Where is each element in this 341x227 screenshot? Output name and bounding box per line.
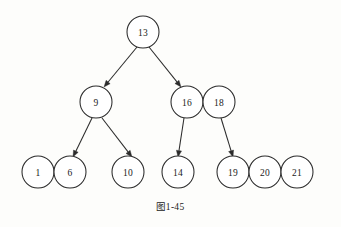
edge-line bbox=[76, 118, 92, 151]
tree-node[interactable]: 6 bbox=[54, 156, 86, 188]
node-label: 14 bbox=[173, 168, 183, 178]
node-label: 1 bbox=[36, 168, 41, 178]
tree-edge bbox=[149, 47, 181, 87]
node-label: 13 bbox=[138, 28, 148, 38]
tree-edge bbox=[176, 118, 184, 157]
edge-line bbox=[149, 47, 177, 82]
edge-line bbox=[221, 118, 231, 151]
node-label: 10 bbox=[123, 168, 133, 178]
tree-edge bbox=[102, 118, 132, 157]
node-label: 20 bbox=[260, 168, 270, 178]
edge-line bbox=[108, 47, 137, 82]
tree-node[interactable]: 9 bbox=[80, 86, 112, 118]
nodes-layer: 1391618161014192021 bbox=[22, 16, 313, 188]
edge-line bbox=[179, 118, 184, 151]
tree-edge bbox=[73, 118, 92, 157]
tree-node[interactable]: 21 bbox=[281, 156, 313, 188]
tree-node[interactable]: 13 bbox=[127, 16, 159, 48]
node-label: 16 bbox=[182, 98, 192, 108]
tree-edge bbox=[221, 118, 234, 157]
tree-node[interactable]: 14 bbox=[162, 156, 194, 188]
tree-diagram-svg: 1391618161014192021 图1-45 bbox=[0, 0, 341, 227]
tree-node[interactable]: 10 bbox=[112, 156, 144, 188]
tree-node[interactable]: 20 bbox=[249, 156, 281, 188]
tree-node[interactable]: 19 bbox=[217, 156, 249, 188]
node-label: 21 bbox=[292, 168, 302, 178]
tree-node[interactable]: 1 bbox=[22, 156, 54, 188]
node-label: 18 bbox=[214, 98, 224, 108]
figure-container: 1391618161014192021 图1-45 bbox=[0, 0, 341, 227]
node-label: 19 bbox=[228, 168, 238, 178]
tree-edge bbox=[104, 47, 137, 87]
node-label: 9 bbox=[94, 98, 99, 108]
node-label: 6 bbox=[68, 168, 73, 178]
figure-caption: 图1-45 bbox=[156, 202, 185, 212]
tree-node[interactable]: 16 bbox=[171, 86, 203, 118]
edge-line bbox=[102, 118, 128, 152]
tree-node[interactable]: 18 bbox=[203, 86, 235, 118]
